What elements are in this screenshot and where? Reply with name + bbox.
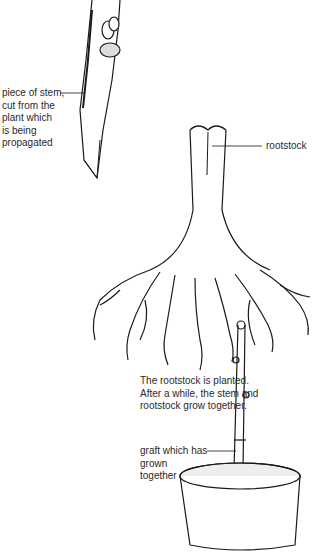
stem-piece-label: piece of stem, cut from the plant which … <box>2 87 64 150</box>
graft-label: graft which has grown together <box>140 445 207 483</box>
rootstock-illustration <box>93 126 310 370</box>
rootstock-label: rootstock <box>266 140 307 153</box>
potted-graft-illustration <box>180 321 300 550</box>
stem-cutting-illustration <box>60 0 120 178</box>
planted-caption: The rootstock is planted. After a while,… <box>140 375 258 413</box>
